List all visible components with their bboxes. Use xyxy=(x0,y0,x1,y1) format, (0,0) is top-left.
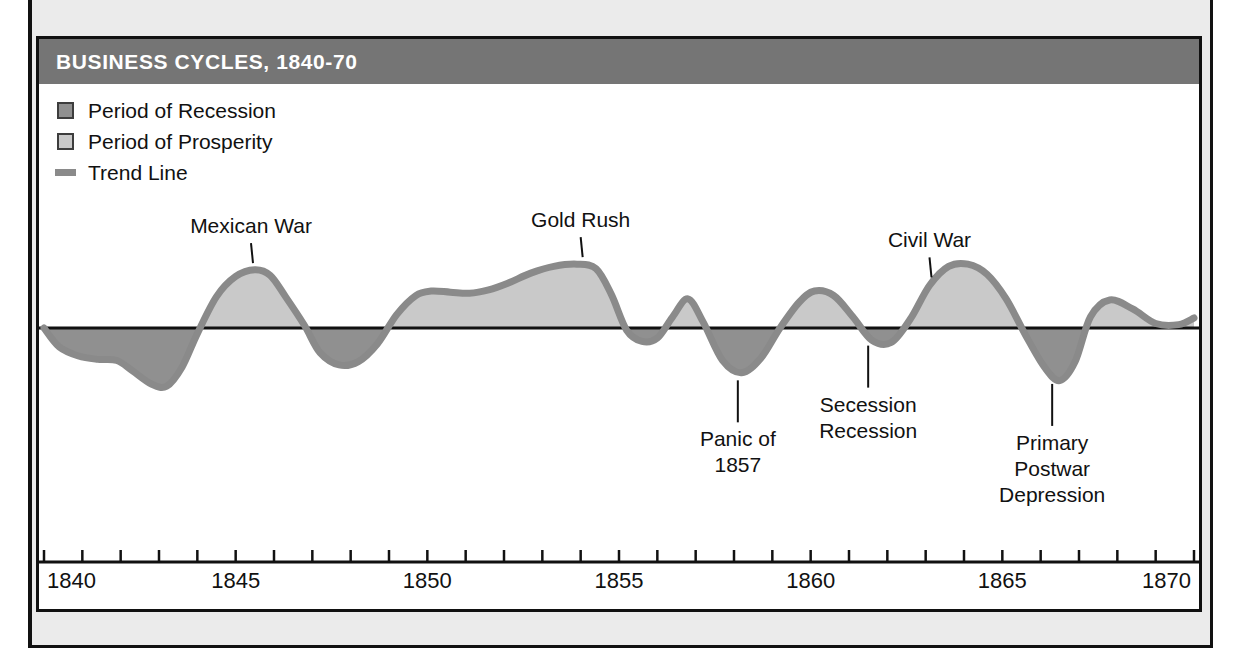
trend-line xyxy=(44,263,1194,387)
legend-item-recession: Period of Recession xyxy=(55,95,385,126)
chart-annotation: Gold Rush xyxy=(531,208,630,257)
legend-label-prosperity: Period of Prosperity xyxy=(88,130,272,154)
figure-title-bar: BUSINESS CYCLES, 1840-70 xyxy=(39,39,1199,84)
trend-line-swatch-icon xyxy=(55,169,76,176)
chart-annotation: Panic of1857 xyxy=(700,380,776,476)
figure-title: BUSINESS CYCLES, 1840-70 xyxy=(39,50,358,74)
recession-swatch-icon xyxy=(57,102,74,119)
prosperity-swatch-icon xyxy=(57,133,74,150)
legend-item-prosperity: Period of Prosperity xyxy=(55,126,385,157)
x-axis-tick-label: 1855 xyxy=(595,568,644,593)
prosperity-area xyxy=(44,263,1194,387)
left-margin-rule xyxy=(28,0,32,648)
chart-annotation: Civil War xyxy=(888,228,971,277)
annotation-label: Gold Rush xyxy=(531,208,630,231)
chart-annotation: Mexican War xyxy=(190,214,312,263)
x-axis-tick-label: 1870 xyxy=(1142,568,1191,593)
annotation-label: Panic of xyxy=(700,427,776,450)
x-axis-tick-label: 1845 xyxy=(211,568,260,593)
annotation-label: 1857 xyxy=(714,453,761,476)
annotation-label: Depression xyxy=(999,483,1105,506)
annotation-leader-line xyxy=(581,237,583,257)
x-axis-tick-label: 1865 xyxy=(978,568,1027,593)
annotation-leader-line xyxy=(251,243,253,263)
annotation-label: Civil War xyxy=(888,228,971,251)
x-axis-tick-label: 1840 xyxy=(47,568,96,593)
business-cycles-figure: BUSINESS CYCLES, 1840-70 Period of Reces… xyxy=(36,36,1202,612)
legend-label-trend-line: Trend Line xyxy=(88,161,188,185)
x-axis-tick-label: 1850 xyxy=(403,568,452,593)
annotation-label: Mexican War xyxy=(190,214,312,237)
annotation-label: Postwar xyxy=(1014,457,1090,480)
chart-annotation: SecessionRecession xyxy=(819,346,917,442)
chart-annotation: PrimaryPostwarDepression xyxy=(999,384,1105,506)
chart-legend: Period of Recession Period of Prosperity… xyxy=(55,95,385,188)
annotation-leader-line xyxy=(930,257,932,277)
legend-item-trend-line: Trend Line xyxy=(55,157,385,188)
annotation-label: Recession xyxy=(819,419,917,442)
annotation-label: Primary xyxy=(1016,431,1089,454)
x-axis-tick-label: 1860 xyxy=(786,568,835,593)
recession-area xyxy=(44,263,1194,387)
figure-page: economy. BUSINESS CYCLES, 1840-70 Period… xyxy=(0,0,1239,663)
legend-label-recession: Period of Recession xyxy=(88,99,276,123)
annotation-label: Secession xyxy=(820,393,917,416)
